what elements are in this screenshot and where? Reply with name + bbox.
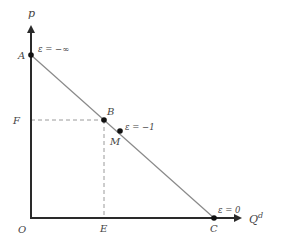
point-c: [211, 215, 217, 221]
point-b-label: B: [106, 106, 114, 117]
demand-diagram: p Qd O A ε = −∞ B M ε = −1 C ε = 0 F E: [0, 0, 286, 242]
point-a-label: A: [17, 50, 25, 61]
point-m-label: M: [109, 136, 121, 147]
y-axis-label: p: [28, 7, 35, 20]
guide-f-label: F: [12, 115, 21, 126]
point-m-elasticity: ε = −1: [125, 122, 155, 132]
point-c-label: C: [210, 223, 218, 234]
guide-e-label: E: [99, 223, 108, 234]
point-m: [117, 128, 123, 134]
point-b: [101, 117, 107, 123]
point-c-elasticity: ε = 0: [218, 205, 241, 215]
origin-label: O: [18, 224, 26, 235]
point-a: [28, 52, 34, 58]
demand-curve: [31, 55, 214, 218]
x-axis-label-superscript: d: [258, 211, 263, 220]
point-a-elasticity: ε = −∞: [38, 44, 69, 54]
x-axis-label: Qd: [249, 211, 263, 226]
